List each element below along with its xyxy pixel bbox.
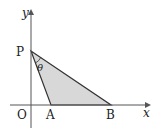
origin-label: O — [17, 108, 27, 122]
y-axis-label: y — [21, 6, 29, 20]
triangle-pab — [31, 51, 111, 105]
coordinate-diagram: y x O P A B θ — [0, 0, 161, 132]
point-b-label: B — [106, 108, 115, 122]
x-axis-label: x — [143, 106, 150, 120]
point-a-label: A — [45, 108, 55, 122]
point-p-label: P — [16, 45, 24, 59]
theta-label: θ — [37, 62, 43, 73]
